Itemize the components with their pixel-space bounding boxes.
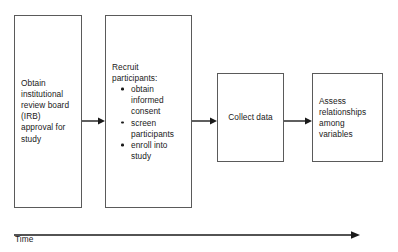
obtain-irb-approval-text: Obtain institutional review board (IRB) … — [21, 78, 75, 145]
bullet-dot-icon — [121, 88, 124, 91]
bullet-text: screen participants — [131, 117, 174, 138]
list-item: enroll into study — [121, 140, 185, 162]
arrow-right-icon — [192, 116, 217, 126]
arrow-right-icon — [14, 230, 360, 240]
connector-arrow-collect-to-assess — [284, 112, 312, 122]
recruit-participants-bullet-list: obtain informed consent screen participa… — [112, 83, 185, 161]
box-content: Obtain institutional review board (IRB) … — [15, 78, 81, 145]
box-content: Recruit participants: obtain informed co… — [106, 61, 191, 162]
box-content: Collect data — [218, 104, 283, 132]
assess-relationships-box: Assess relationships among variables — [312, 73, 383, 162]
assess-relationships-text: Assess relationships among variables — [319, 95, 376, 140]
arrow-right-icon — [284, 116, 312, 126]
bullet-text: obtain informed consent — [131, 83, 164, 115]
arrow-right-icon — [82, 116, 105, 126]
box-content: Assess relationships among variables — [313, 95, 382, 140]
connector-arrow-recruit-to-collect — [192, 112, 217, 122]
obtain-irb-approval-box: Obtain institutional review board (IRB) … — [14, 15, 82, 208]
connector-arrow-irb-to-recruit — [82, 112, 105, 122]
recruit-participants-text: Recruit participants: — [112, 61, 185, 83]
flowchart-diagram: Obtain institutional review board (IRB) … — [0, 0, 398, 252]
collect-data-box: Collect data — [217, 73, 284, 162]
list-item: obtain informed consent — [121, 83, 185, 117]
time-axis-label: Time — [15, 234, 33, 245]
bullet-text: enroll into study — [131, 140, 168, 161]
recruit-participants-box: Recruit participants: obtain informed co… — [105, 15, 192, 208]
bullet-dot-icon — [121, 121, 124, 124]
time-axis-arrow — [14, 226, 360, 236]
list-item: screen participants — [121, 117, 185, 139]
collect-data-text: Collect data — [224, 112, 277, 123]
bullet-dot-icon — [121, 144, 124, 147]
